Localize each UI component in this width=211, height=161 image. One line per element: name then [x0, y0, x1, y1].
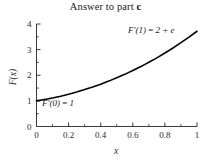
x-tick-label: 0.8 [159, 130, 171, 140]
x-axis-tick-labels: 00.20.40.60.81 [34, 130, 199, 140]
y-axis-title: F(x) [8, 69, 19, 86]
annotation-derivative-at-one: F′(0) = 1 [41, 98, 74, 108]
data-curve-f-of-x [37, 31, 198, 101]
y-axis-major-ticks [37, 24, 41, 127]
x-axis-title: x [113, 146, 119, 156]
y-tick-label: 0 [27, 122, 32, 132]
annotation-derivative-at-zero: F′(1) = 2 + e [127, 25, 175, 35]
x-tick-label: 1 [195, 130, 200, 140]
x-tick-label: 0.2 [63, 130, 74, 140]
y-tick-label: 3 [27, 45, 32, 55]
x-tick-label: 0 [34, 130, 39, 140]
plot-area: 01234 00.20.40.60.81 F(x) x F′(0) = 1 F′… [0, 0, 211, 161]
figure-container: Answer to part c 01234 00.20.40.60.81 F(… [0, 0, 211, 161]
y-tick-label: 4 [27, 19, 32, 29]
y-tick-label: 2 [27, 70, 32, 80]
x-tick-label: 0.6 [127, 130, 139, 140]
x-tick-label: 0.4 [95, 130, 107, 140]
y-tick-label: 1 [27, 96, 32, 106]
y-axis-tick-labels: 01234 [27, 19, 32, 132]
